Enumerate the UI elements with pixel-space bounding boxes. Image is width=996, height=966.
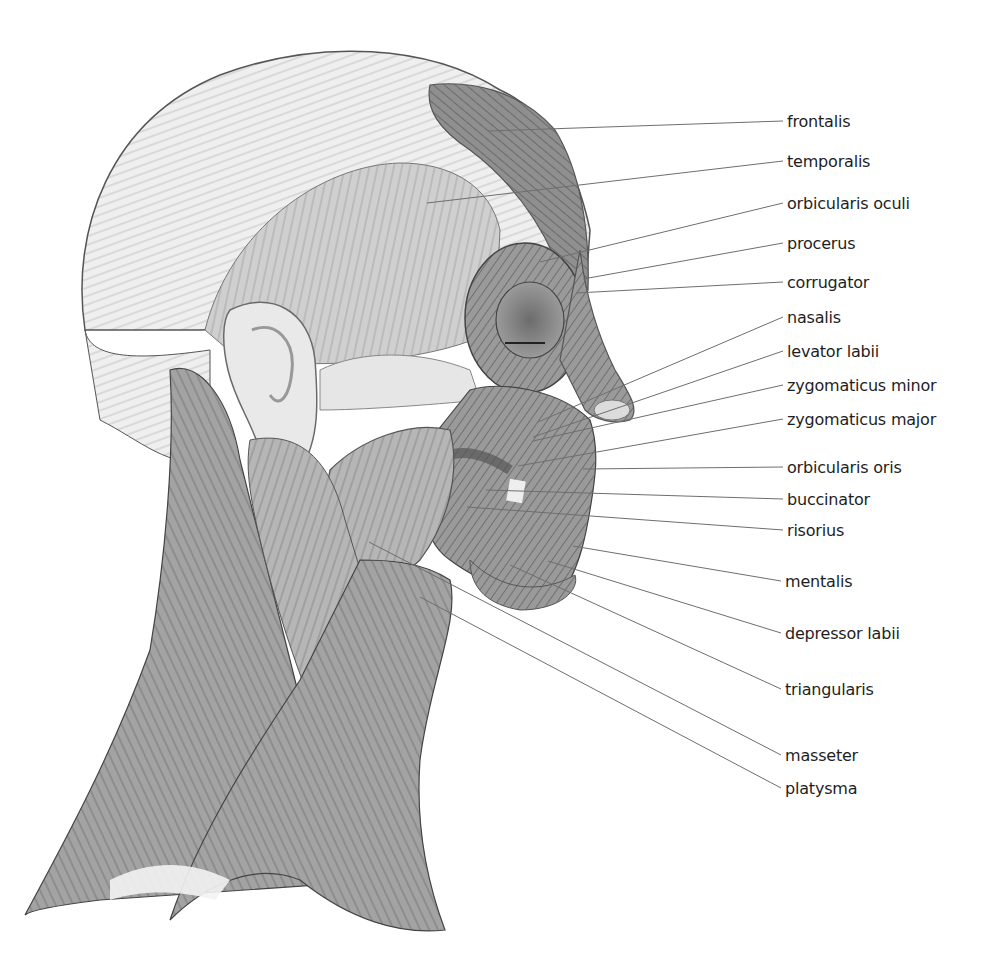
label-masseter: masseter bbox=[785, 746, 858, 766]
label-platysma: platysma bbox=[785, 779, 857, 799]
label-depressor-labii: depressor labii bbox=[785, 624, 900, 644]
label-orbicularis-oris: orbicularis oris bbox=[787, 458, 902, 478]
head-neck-illustration bbox=[0, 0, 996, 966]
label-mentalis: mentalis bbox=[785, 572, 852, 592]
label-zygomaticus-major: zygomaticus major bbox=[787, 410, 936, 430]
anatomy-diagram: frontalis temporalis orbicularis oculi p… bbox=[0, 0, 996, 966]
label-zygomaticus-minor: zygomaticus minor bbox=[787, 376, 936, 396]
label-risorius: risorius bbox=[787, 521, 844, 541]
label-orbicularis-oculi: orbicularis oculi bbox=[787, 194, 910, 214]
label-nasalis: nasalis bbox=[787, 308, 841, 328]
label-buccinator: buccinator bbox=[787, 490, 870, 510]
label-frontalis: frontalis bbox=[787, 112, 850, 132]
label-corrugator: corrugator bbox=[787, 273, 869, 293]
label-procerus: procerus bbox=[787, 234, 855, 254]
label-triangularis: triangularis bbox=[785, 680, 874, 700]
label-temporalis: temporalis bbox=[787, 152, 870, 172]
label-levator-labii: levator labii bbox=[787, 342, 879, 362]
